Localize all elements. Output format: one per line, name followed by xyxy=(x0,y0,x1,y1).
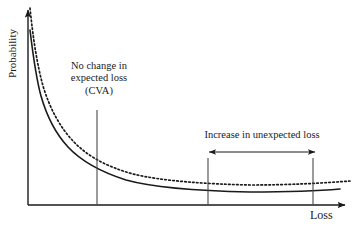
cva-annotation: No change in expected loss (CVA) xyxy=(44,60,154,97)
chart-canvas xyxy=(0,0,363,229)
cva-annotation-line-2: expected loss xyxy=(44,72,154,84)
curve-original-solid xyxy=(30,30,340,192)
unexpected-loss-annotation: Increase in unexpected loss xyxy=(196,129,328,141)
cva-annotation-line-3: (CVA) xyxy=(44,85,154,97)
cva-annotation-line-1: No change in xyxy=(44,60,154,72)
y-axis-label: Probability xyxy=(6,17,19,89)
x-axis-label: Loss xyxy=(310,208,333,222)
chart-figure: Probability Loss No change in expected l… xyxy=(0,0,363,229)
